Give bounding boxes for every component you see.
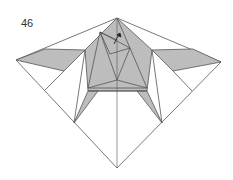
origami-diagram bbox=[0, 0, 233, 180]
